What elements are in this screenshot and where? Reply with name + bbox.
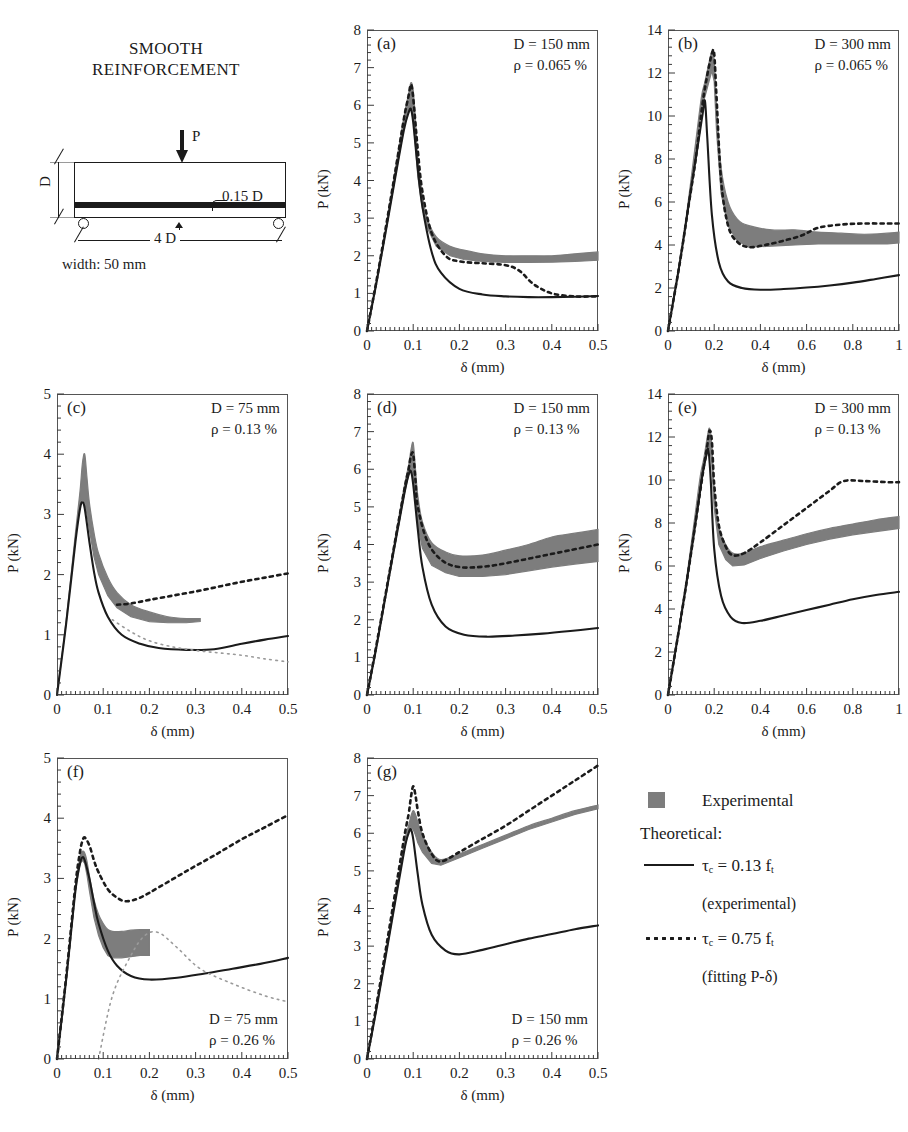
x-tick-label: 0.1 (390, 1065, 436, 1082)
x-tick-label: 1 (876, 337, 908, 354)
y-tick-label: 6 (632, 194, 662, 211)
y-tick-label: 2 (632, 280, 662, 297)
support-roller-right (273, 218, 284, 229)
x-tick-label: 0.1 (80, 701, 126, 718)
y-tick-label: 4 (632, 601, 662, 618)
x-tick-label: 0.5 (265, 701, 311, 718)
plot-b: (b)D = 300 mmρ = 0.065 %0246810121400.20… (668, 30, 899, 331)
x-tick-label: 0.5 (575, 1065, 621, 1082)
x-tick-label: 0.6 (784, 701, 830, 718)
y-axis-label: P (kN) (5, 897, 22, 937)
x-tick-label: 0.4 (219, 1065, 265, 1082)
y-tick-label: 3 (21, 506, 51, 523)
x-tick-label: 0.2 (126, 701, 172, 718)
panel-label-d: (d) (377, 398, 397, 418)
x-tick-label: 0.8 (830, 701, 876, 718)
x-tick-label: 0.2 (436, 337, 482, 354)
x-tick-label: 0 (34, 1065, 80, 1082)
y-tick-label: 4 (331, 536, 361, 553)
x-tick-label: 0.4 (219, 701, 265, 718)
y-tick-label: 2 (331, 975, 361, 992)
y-tick-label: 10 (632, 472, 662, 489)
x-tick-label: 0 (344, 1065, 390, 1082)
annotation-line: D = 75 mm (211, 398, 280, 419)
dotted-line-swatch (644, 937, 696, 940)
panel-label-g: (g) (377, 762, 397, 782)
x-tick-label: 0 (344, 337, 390, 354)
y-tick-label: 10 (632, 108, 662, 125)
annotation-line: ρ = 0.065 % (815, 55, 891, 76)
y-axis-label: P (kN) (315, 533, 332, 573)
x-tick-label: 0.5 (575, 337, 621, 354)
y-tick-label: 1 (21, 990, 51, 1007)
plot-a: (a)D = 150 mmρ = 0.065 %01234567800.10.2… (367, 30, 598, 331)
x-tick-label: 0.8 (830, 337, 876, 354)
x-axis-label: δ (mm) (367, 723, 598, 740)
y-tick-label: 1 (21, 626, 51, 643)
y-tick-label: 3 (331, 210, 361, 227)
panel-annotation: D = 75 mmρ = 0.13 % (211, 398, 280, 440)
x-tick-label: 0.1 (390, 701, 436, 718)
x-tick-label: 0 (645, 337, 691, 354)
y-tick-label: 7 (331, 59, 361, 76)
x-tick-label: 0.4 (529, 1065, 575, 1082)
y-tick-label: 1 (331, 1013, 361, 1030)
y-tick-label: 4 (331, 172, 361, 189)
x-tick-label: 0.6 (784, 337, 830, 354)
y-axis-label: P (kN) (315, 169, 332, 209)
legend-label-solid: τc = 0.13 ft (702, 855, 774, 880)
annotation-line: D = 150 mm (512, 1009, 588, 1030)
x-tick-label: 0 (645, 701, 691, 718)
x-tick-label: 0.1 (390, 337, 436, 354)
panel-label-f: (f) (67, 762, 84, 782)
y-tick-label: 2 (21, 930, 51, 947)
y-tick-label: 2 (632, 644, 662, 661)
panel-annotation: D = 75 mmρ = 0.26 % (209, 1009, 278, 1051)
y-tick-label: 8 (632, 515, 662, 532)
legend-row-experimental: Experimental (640, 790, 900, 811)
y-tick-label: 6 (331, 825, 361, 842)
span-label: 4 D (150, 230, 180, 247)
schematic-title: SMOOTH REINFORCEMENT (16, 38, 316, 80)
x-tick-label: 0.4 (529, 337, 575, 354)
x-tick-label: 0.4 (529, 701, 575, 718)
y-tick-label: 5 (21, 386, 51, 403)
x-tick-label: 0.2 (126, 1065, 172, 1082)
series-solid (367, 108, 598, 331)
load-label: P (192, 128, 200, 145)
y-tick-label: 2 (331, 247, 361, 264)
y-tick-label: 12 (632, 429, 662, 446)
x-tick-label: 0.3 (483, 1065, 529, 1082)
y-tick-label: 2 (21, 566, 51, 583)
load-arrow-icon (176, 130, 188, 164)
y-axis-label: P (kN) (315, 897, 332, 937)
y-tick-label: 7 (331, 787, 361, 804)
x-tick-label: 1 (876, 701, 908, 718)
y-tick-label: 8 (331, 386, 361, 403)
x-tick-label: 0 (344, 701, 390, 718)
panel-annotation: D = 300 mmρ = 0.13 % (815, 398, 891, 440)
legend-label-experimental: Experimental (702, 790, 794, 811)
y-tick-label: 4 (21, 446, 51, 463)
panel-label-a: (a) (377, 34, 396, 54)
x-axis-label: δ (mm) (668, 723, 899, 740)
legend-label-dotted: τc = 0.75 ft (702, 928, 774, 953)
experimental-band-swatch (648, 792, 665, 808)
plot-f: (f)D = 75 mmρ = 0.26 %01234500.10.20.30.… (57, 758, 288, 1059)
series-solid (668, 449, 899, 695)
experimental-band (367, 442, 598, 695)
x-axis-label: δ (mm) (668, 359, 899, 376)
y-tick-label: 8 (331, 22, 361, 39)
panel-annotation: D = 300 mmρ = 0.065 % (815, 34, 891, 76)
y-tick-label: 14 (632, 22, 662, 39)
annotation-line: D = 150 mm (514, 398, 590, 419)
y-tick-label: 4 (632, 237, 662, 254)
x-tick-label: 0 (34, 701, 80, 718)
plot-g: (g)D = 150 mmρ = 0.26 %01234567800.10.20… (367, 758, 598, 1059)
cover-label: 0.15 D (222, 188, 263, 205)
y-tick-label: 1 (331, 285, 361, 302)
y-tick-label: 5 (331, 498, 361, 515)
x-tick-label: 0.5 (575, 701, 621, 718)
y-tick-label: 3 (21, 870, 51, 887)
annotation-line: D = 300 mm (815, 34, 891, 55)
